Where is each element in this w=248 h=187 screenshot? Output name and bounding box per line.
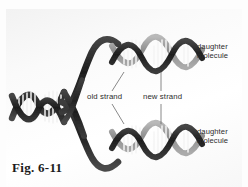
label-daughter-molecule-lower: daughter molecule [197,128,228,145]
daughter-molecule-lower [112,123,202,157]
daughter-molecule-upper [112,37,202,71]
label-daughter-upper-line2: molecule [197,52,228,61]
label-old-strand: old strand [87,93,122,102]
leader-old-strand-down [112,104,124,124]
parent-dna-molecule [12,91,64,123]
figure-container: daughter molecule daughter molecule old … [0,0,248,187]
label-daughter-lower-line2: molecule [197,137,228,146]
label-new-strand: new strand [143,93,182,102]
dna-replication-diagram [0,0,248,187]
label-daughter-molecule-upper: daughter molecule [197,43,228,60]
figure-caption: Fig. 6-11 [12,160,62,176]
leader-old-strand-up [112,72,124,91]
